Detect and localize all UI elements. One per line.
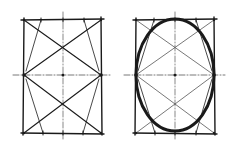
corner-point: [135, 19, 137, 21]
figure-construction: [13, 12, 111, 141]
diagram-canvas: [0, 0, 235, 149]
figure-ellipse-drawn: [124, 12, 225, 141]
side-midpoint-right: [99, 73, 103, 77]
corner-point: [213, 19, 215, 21]
side-midpoint-left: [22, 73, 26, 77]
corner-point: [100, 19, 102, 21]
center-point: [62, 74, 65, 77]
corner-point: [213, 132, 215, 134]
corner-point: [135, 132, 137, 134]
center-point: [174, 74, 177, 77]
construction-line: [84, 20, 99, 71]
construction-line: [26, 20, 41, 71]
corner-point: [100, 132, 102, 134]
construction-line: [196, 79, 212, 133]
corner-point: [23, 19, 25, 21]
corner-point: [23, 132, 25, 134]
ellipse-construction-diagram: [0, 0, 235, 149]
